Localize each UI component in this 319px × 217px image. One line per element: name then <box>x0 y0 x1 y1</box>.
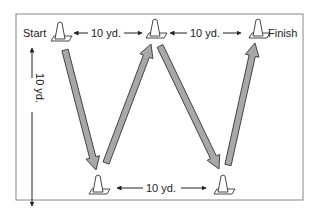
top-right-distance-label: 10 yd. <box>190 27 220 39</box>
path-arrow-start-to-bottom-left <box>62 49 100 170</box>
bottom-distance-label: 10 yd. <box>146 182 176 194</box>
top-middle-cone-icon <box>146 19 167 38</box>
path-arrow-bottom-left-to-top-middle <box>103 44 153 164</box>
frame <box>16 14 303 200</box>
drill-diagram: Start Finish 10 yd. 10 yd. 10 yd. 10 yd. <box>0 0 319 217</box>
top-left-distance-label: 10 yd. <box>91 27 121 39</box>
start-label: Start <box>23 27 46 39</box>
finish-cone-icon <box>249 19 270 38</box>
start-cone-icon <box>51 22 72 41</box>
finish-label: Finish <box>268 27 297 39</box>
bottom-right-cone-icon <box>214 175 235 194</box>
vertical-distance-label: 10 yd. <box>34 73 46 103</box>
bottom-left-cone-icon <box>89 175 110 194</box>
path-arrow-bottom-right-to-finish <box>225 43 259 166</box>
path-arrow-top-middle-to-bottom-right <box>157 45 220 169</box>
